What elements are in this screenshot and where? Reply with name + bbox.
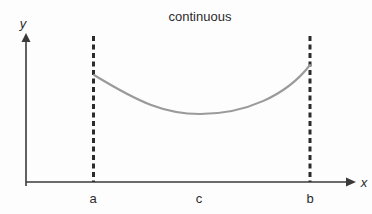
function-curve [94, 65, 310, 114]
x-axis-arrow-icon [346, 178, 356, 187]
x-axis-label: x [360, 175, 368, 190]
tick-label-a: a [89, 191, 97, 206]
figure-container: continuous y x a c b [0, 0, 372, 214]
tick-label-c: c [196, 191, 203, 206]
y-axis-label: y [19, 16, 28, 31]
diagram-canvas: continuous y x a c b [0, 0, 372, 214]
y-axis-arrow-icon [22, 33, 31, 42]
tick-label-b: b [306, 191, 313, 206]
chart-title: continuous [169, 9, 232, 24]
